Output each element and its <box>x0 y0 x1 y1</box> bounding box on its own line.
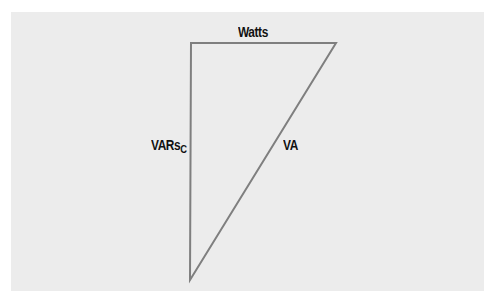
triangle-shape <box>190 43 336 280</box>
vars-label-subscript: C <box>180 143 186 155</box>
watts-label: Watts <box>238 24 268 40</box>
power-triangle <box>0 0 491 297</box>
vars-label: VARsC <box>151 137 187 153</box>
vars-label-main: VARs <box>151 137 180 153</box>
va-label: VA <box>283 137 298 153</box>
